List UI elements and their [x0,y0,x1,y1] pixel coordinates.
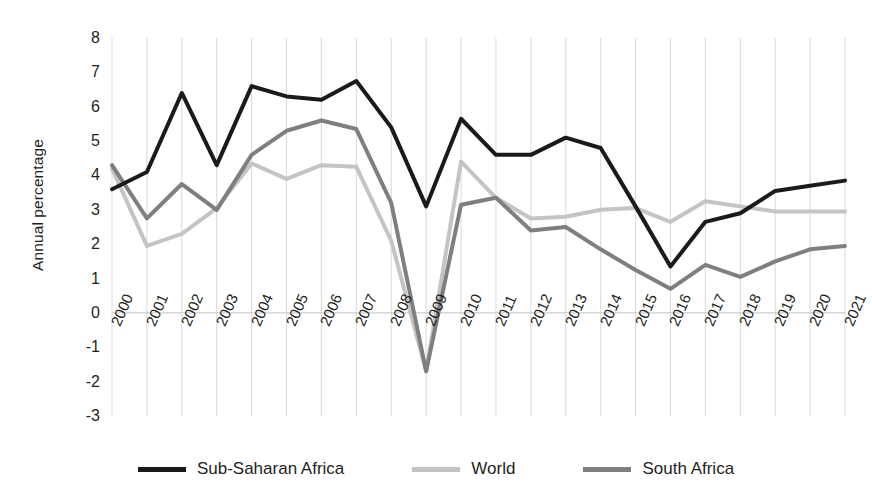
line-chart-figure: Annual percentage 876543210-1-2-3 200020… [0,0,872,503]
chart-legend: Sub-Saharan AfricaWorldSouth Africa [0,447,872,491]
legend-label: Sub-Saharan Africa [197,459,344,479]
y-tick-label: -2 [64,374,100,390]
y-tick-label: -3 [64,408,100,424]
legend-line-swatch [138,467,186,472]
y-tick-label: 7 [64,64,100,80]
y-tick-label: 6 [64,99,100,115]
y-tick-label: 4 [64,167,100,183]
y-tick-label: 0 [64,305,100,321]
y-tick-label: 8 [64,30,100,46]
y-tick-label: 1 [64,271,100,287]
x-axis-tick-labels: 2000200120022003200420052006200720082009… [112,322,872,432]
y-tick-label: 3 [64,202,100,218]
y-tick-label: 5 [64,133,100,149]
legend-item[interactable]: Sub-Saharan Africa [138,459,344,479]
y-axis-tick-labels: 876543210-1-2-3 [60,0,100,503]
y-axis-title: Annual percentage [29,105,47,305]
legend-line-swatch [583,467,631,472]
series-line [112,81,845,267]
legend-line-swatch [412,467,460,472]
legend-item[interactable]: World [412,459,515,479]
legend-label: South Africa [642,459,734,479]
y-tick-label: -1 [64,339,100,355]
legend-item[interactable]: South Africa [583,459,734,479]
y-tick-label: 2 [64,236,100,252]
legend-label: World [471,459,515,479]
